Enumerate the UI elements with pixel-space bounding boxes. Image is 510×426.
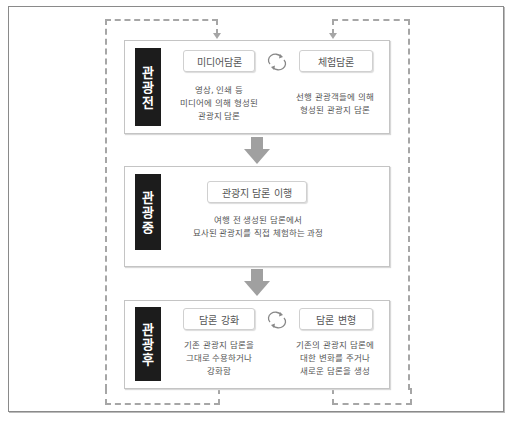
stage-after-tour: 관 광 후 담론 강화 담론 변형 기존 관광지 담론을 그대로 수용하거나 강…: [124, 300, 390, 389]
down-arrow-icon: [244, 269, 270, 297]
discourse-transformation-description: 기존의 관광지 담론에 대한 변화를 주거나 새로운 담론을 생성: [285, 339, 385, 378]
left-feedback-arrowhead-icon: [213, 33, 221, 39]
stage-label-during-tour: 관 광 중: [135, 174, 161, 250]
discourse-reinforcement-description: 기존 관광지 담론을 그대로 수용하거나 강화함: [169, 339, 269, 378]
discourse-fulfillment-box: 관광지 담론 이행: [207, 181, 307, 203]
media-discourse-description: 영상, 인쇄 등 미디어에 의해 형성된 관광지 담론: [169, 84, 269, 123]
discourse-reinforcement-box: 담론 강화: [183, 308, 255, 330]
left-feedback-loop-bottom: [105, 388, 220, 405]
right-feedback-loop-bottom: [332, 388, 412, 405]
right-feedback-loop-side: [408, 19, 410, 390]
cycle-icon: [266, 311, 288, 329]
stage-before-tour: 관 광 전 미디어담론 체험담론 영상, 인쇄 등 미디어에 의해 형성된 관광…: [124, 40, 390, 134]
right-feedback-loop-top: [332, 19, 410, 35]
down-arrow-icon: [244, 137, 270, 165]
right-feedback-arrowhead-icon: [329, 33, 337, 39]
stage-during-tour: 관 광 중 관광지 담론 이행 여행 전 생성된 담론에서 묘사된 관광지를 직…: [124, 166, 390, 267]
stage-label-before-tour: 관 광 전: [135, 48, 161, 126]
left-feedback-loop-top: [105, 19, 218, 35]
stage-label-after-tour: 관 광 후: [135, 307, 161, 381]
discourse-fulfillment-description: 여행 전 생성된 담론에서 묘사된 관광지를 직접 체험하는 과정: [173, 214, 343, 240]
left-feedback-loop-side: [105, 19, 107, 390]
media-discourse-box: 미디어담론: [183, 50, 255, 72]
cycle-icon: [266, 53, 288, 71]
experience-discourse-description: 선행 관광객들에 의해 형성된 관광지 담론: [285, 91, 385, 117]
experience-discourse-box: 체험담론: [299, 50, 373, 72]
discourse-transformation-box: 담론 변형: [299, 308, 373, 330]
